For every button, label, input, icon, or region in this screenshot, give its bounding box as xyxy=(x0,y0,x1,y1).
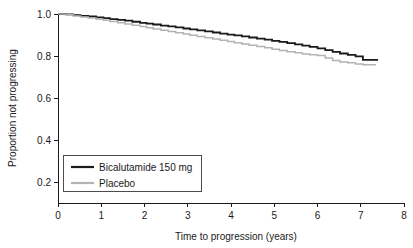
x-tick-label: 1 xyxy=(98,210,104,221)
y-tick-label: 0.8 xyxy=(37,51,51,62)
x-tick-label: 7 xyxy=(358,210,364,221)
x-tick-label: 6 xyxy=(315,210,321,221)
x-tick-label: 3 xyxy=(185,210,191,221)
x-tick-label: 4 xyxy=(228,210,234,221)
y-tick-label: 0.2 xyxy=(37,177,51,188)
y-tick-label: 0.4 xyxy=(37,135,51,146)
y-tick-label: 0.6 xyxy=(37,93,51,104)
x-tick-label: 0 xyxy=(55,210,61,221)
kaplan-meier-figure: 0.20.40.60.81.0 012345678 Bicalutamide 1… xyxy=(0,0,413,248)
legend-label-2: Placebo xyxy=(99,178,136,189)
x-tick-label: 2 xyxy=(142,210,148,221)
chart-legend: Bicalutamide 150 mgPlacebo xyxy=(63,155,201,191)
series-group xyxy=(58,14,378,65)
x-tick-label: 8 xyxy=(401,210,407,221)
y-axis-title: Proportion not progressing xyxy=(7,49,18,167)
y-tick-label: 1.0 xyxy=(37,9,51,20)
series-line-placebo xyxy=(58,14,376,65)
legend-label-1: Bicalutamide 150 mg xyxy=(99,162,192,173)
x-tick-label: 5 xyxy=(271,210,277,221)
x-axis: 012345678 xyxy=(55,203,407,221)
x-axis-title: Time to progression (years) xyxy=(175,231,297,242)
y-axis: 0.20.40.60.81.0 xyxy=(37,9,58,204)
chart-canvas: 0.20.40.60.81.0 012345678 Bicalutamide 1… xyxy=(0,0,413,248)
